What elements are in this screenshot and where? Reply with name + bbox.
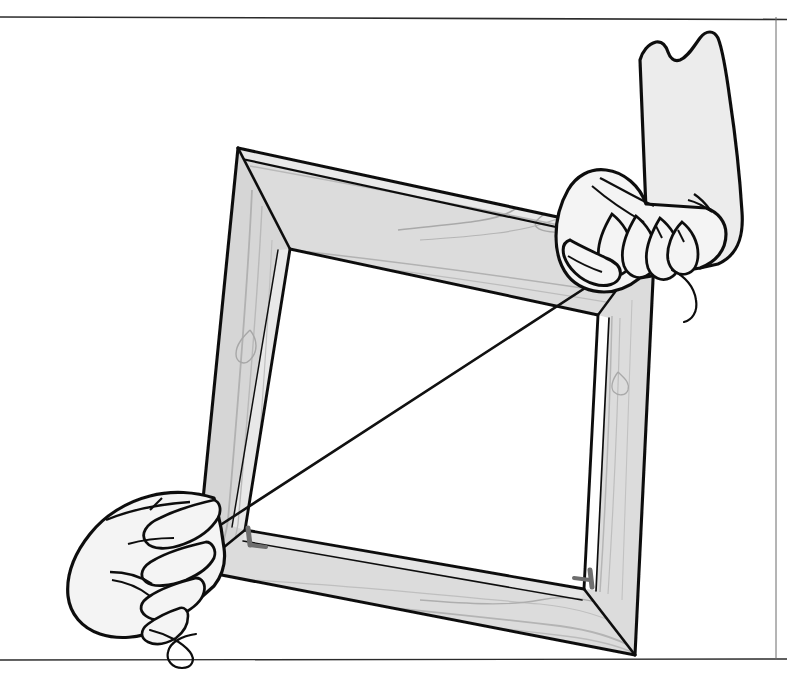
bottom-horizontal-rule bbox=[0, 659, 787, 660]
illustration-page bbox=[0, 0, 787, 693]
frame-squaring-illustration bbox=[0, 0, 787, 693]
